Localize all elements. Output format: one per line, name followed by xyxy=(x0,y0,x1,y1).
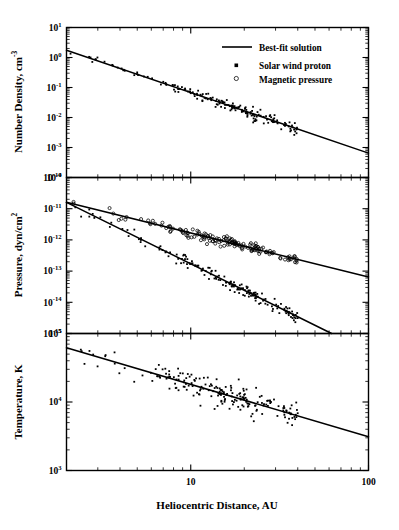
data-point-filled-square xyxy=(239,396,241,398)
data-point-filled-square xyxy=(250,415,252,417)
data-point-filled-square xyxy=(240,409,242,411)
data-point-filled-square xyxy=(184,258,186,260)
data-point-filled-square xyxy=(284,416,286,418)
x-tick-label: 10 xyxy=(186,477,196,487)
data-point-filled-square xyxy=(256,293,258,295)
data-point-filled-square xyxy=(241,284,243,286)
data-point-filled-square xyxy=(142,375,144,377)
data-point-filled-square xyxy=(174,91,176,93)
data-point-filled-square xyxy=(193,379,195,381)
panel3-data-points xyxy=(80,349,299,426)
data-point-filled-square xyxy=(226,99,228,101)
data-point-filled-square xyxy=(234,291,236,293)
data-point-filled-square xyxy=(247,406,249,408)
panel3-axes-frame xyxy=(67,334,369,471)
panel2-y-axis-title: Pressure, dyn/cm2 xyxy=(10,212,24,297)
data-point-filled-square xyxy=(211,270,213,272)
panel3-best-fit-line xyxy=(67,348,369,437)
data-point-filled-square xyxy=(181,86,183,88)
data-point-filled-square xyxy=(207,93,209,95)
data-point-filled-square xyxy=(183,380,185,382)
data-point-filled-square xyxy=(224,401,226,403)
data-point-filled-square xyxy=(254,292,256,294)
data-point-filled-square xyxy=(260,302,262,304)
data-point-filled-square xyxy=(266,400,268,402)
data-point-filled-square xyxy=(155,368,157,370)
data-point-filled-square xyxy=(216,378,218,380)
data-point-filled-square xyxy=(236,400,238,402)
data-point-filled-square xyxy=(223,391,225,393)
y-tick-label: 103 xyxy=(49,464,63,476)
data-point-filled-square xyxy=(285,306,287,308)
data-point-filled-square xyxy=(173,89,175,91)
data-point-filled-square xyxy=(189,88,191,90)
data-point-filled-square xyxy=(291,311,293,313)
data-point-filled-square xyxy=(205,384,207,386)
data-point-filled-square xyxy=(162,368,164,370)
data-point-filled-square xyxy=(217,395,219,397)
data-point-filled-square xyxy=(218,275,220,277)
panel2-axes-frame xyxy=(67,178,369,334)
data-point-filled-square xyxy=(185,377,187,379)
data-point-filled-square xyxy=(249,290,251,292)
data-point-filled-square xyxy=(253,420,255,422)
data-point-filled-square xyxy=(165,373,167,375)
data-point-filled-square xyxy=(294,416,296,418)
data-point-filled-square xyxy=(195,377,197,379)
data-point-filled-square xyxy=(269,114,271,116)
data-point-filled-square xyxy=(175,263,177,265)
data-point-filled-square xyxy=(251,115,253,117)
y-tick-label: 10-14 xyxy=(43,295,62,307)
data-point-filled-square xyxy=(233,281,235,283)
data-point-filled-square xyxy=(238,292,240,294)
data-point-filled-square xyxy=(187,267,189,269)
data-point-filled-square xyxy=(263,123,265,125)
panel2-tick-marks xyxy=(67,178,369,334)
data-point-filled-square xyxy=(277,415,279,417)
data-point-filled-square xyxy=(217,104,219,106)
data-point-filled-square xyxy=(251,110,253,112)
data-point-filled-square xyxy=(267,304,269,306)
data-point-filled-square xyxy=(202,93,204,95)
data-point-filled-square xyxy=(178,375,180,377)
legend-label-solar-wind-proton: Solar wind proton xyxy=(259,61,332,71)
data-point-filled-square xyxy=(294,418,296,420)
three-panel-log-log-figure: 10110010-110-210-310-4 Number Density, c… xyxy=(0,0,399,530)
data-point-filled-square xyxy=(276,307,278,309)
data-point-filled-square xyxy=(174,383,176,385)
data-point-filled-square xyxy=(197,90,199,92)
data-point-filled-square xyxy=(283,405,285,407)
panel3-y-tick-labels: 105104103 xyxy=(49,327,63,476)
data-point-filled-square xyxy=(224,101,226,103)
data-point-filled-square xyxy=(289,408,291,410)
data-point-filled-square xyxy=(157,375,159,377)
data-point-filled-square xyxy=(168,255,170,257)
data-point-filled-square xyxy=(196,98,198,100)
data-point-filled-square xyxy=(233,401,235,403)
data-point-filled-square xyxy=(239,284,241,286)
data-point-filled-square xyxy=(231,108,233,110)
y-tick-label: 100 xyxy=(49,51,63,63)
data-point-filled-square xyxy=(293,134,295,136)
data-point-filled-square xyxy=(288,314,290,316)
data-point-filled-square xyxy=(151,380,153,382)
data-point-filled-square xyxy=(184,254,186,256)
y-tick-label: 10-10 xyxy=(43,171,62,183)
data-point-filled-square xyxy=(196,392,198,394)
data-point-filled-square xyxy=(252,122,254,124)
y-tick-label: 104 xyxy=(49,395,63,407)
data-point-filled-square xyxy=(225,386,227,388)
data-point-filled-square xyxy=(294,122,296,124)
data-point-filled-square xyxy=(293,317,295,319)
data-point-filled-square xyxy=(221,403,223,405)
data-point-filled-square xyxy=(252,413,254,415)
x-tick-label: 100 xyxy=(361,477,376,487)
data-point-filled-square xyxy=(109,226,111,228)
data-point-filled-square xyxy=(89,350,91,352)
data-point-filled-square xyxy=(296,409,298,411)
data-point-filled-square xyxy=(237,406,239,408)
data-point-filled-square xyxy=(209,385,211,387)
data-point-filled-square xyxy=(133,229,135,231)
data-point-filled-square xyxy=(229,289,231,291)
data-point-filled-square xyxy=(273,399,275,401)
